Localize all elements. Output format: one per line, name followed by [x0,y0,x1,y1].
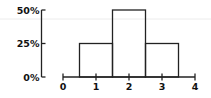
y-tick-label: 0% [23,72,40,83]
x-tick-label: 4 [192,81,199,92]
y-tick-label: 25% [17,38,40,49]
x-tick-label: 1 [93,81,100,92]
histogram-chart: 0%25%50% 01234 [0,0,211,98]
x-axis: 01234 [60,74,199,93]
x-tick-label: 0 [60,81,67,92]
histogram-bar [80,44,113,78]
x-tick-label: 2 [126,81,133,92]
y-tick-label: 50% [17,5,40,16]
histogram-bar [146,44,179,78]
y-axis: 0%25%50% [17,5,46,83]
bars [80,10,179,77]
x-tick-label: 3 [159,81,166,92]
histogram-bar [113,10,146,77]
